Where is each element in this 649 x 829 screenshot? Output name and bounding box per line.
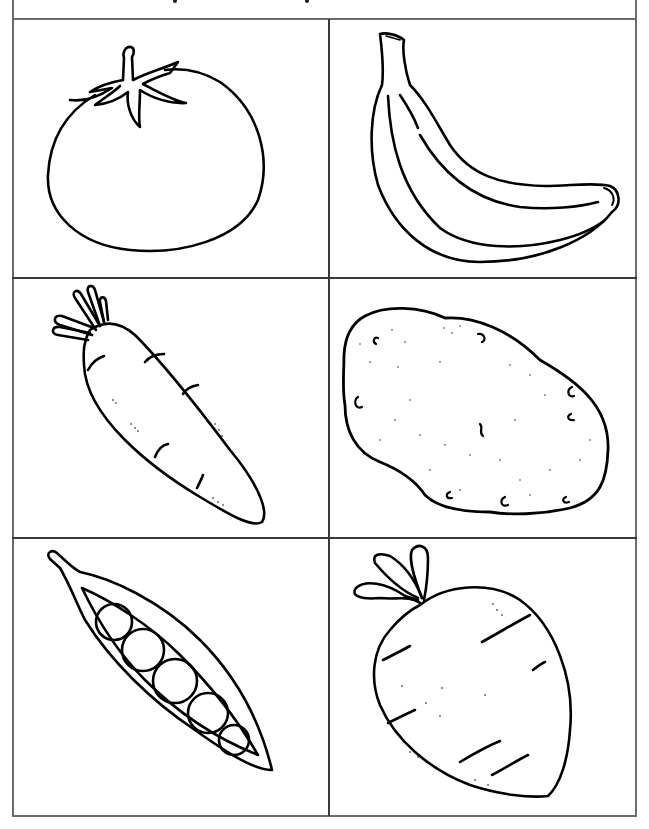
cell-potato: potato	[330, 279, 635, 537]
cell-carrot: carrot	[14, 279, 328, 537]
cell-pea-pod: pea pod	[14, 539, 328, 815]
beet-icon	[330, 539, 635, 815]
pea-pod-icon	[14, 539, 328, 815]
cell-beet: beet	[330, 539, 635, 815]
header-text-fragment	[305, 0, 309, 3]
banana-icon	[330, 20, 635, 277]
cell-banana: banana	[330, 20, 635, 277]
frame-right-border	[635, 0, 637, 817]
tomato-icon	[14, 20, 328, 277]
cell-tomato: tomato	[14, 20, 328, 277]
header-text-fragment	[173, 0, 177, 3]
coloring-worksheet: tomato banana carrot	[0, 0, 649, 829]
grid-bottom-border	[12, 815, 637, 817]
carrot-icon	[14, 279, 328, 537]
potato-icon	[330, 279, 635, 537]
